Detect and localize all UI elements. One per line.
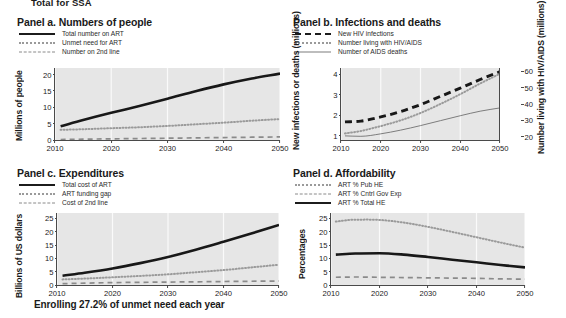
figure-root: Total for SSA Panel a. Numbers of people…	[0, 0, 566, 318]
legend-item: Total cost of ART	[17, 180, 124, 189]
x-axis-tick-label: 2010	[323, 285, 340, 298]
y-axis-tick-label: 10	[43, 103, 55, 112]
legend-label: ART funding gap	[62, 189, 111, 198]
y-axis-tick-label: 5	[49, 267, 57, 276]
x-axis-tick-label: 2050	[271, 285, 288, 298]
panel-b-ylabel-left: New infections or deaths (millions)	[292, 62, 302, 150]
y-axis-tick-label: 10	[319, 254, 331, 263]
y-axis-right-tick-label: 40	[521, 100, 533, 109]
panel-a-ylabel: Millions of people	[14, 66, 24, 146]
x-axis-tick-label: 2040	[215, 140, 232, 153]
legend-item: ART % Total HE	[293, 198, 402, 207]
line-style-dashed-icon	[17, 198, 57, 207]
figure-suptitle: Total for SSA	[31, 0, 92, 8]
x-axis-tick-label: 2050	[517, 285, 534, 298]
panel-a-legend: Total number on ART Unmet need for ART N…	[17, 29, 152, 56]
x-axis-tick-label: 2020	[371, 285, 388, 298]
panel-c: Panel c. Expenditures Total cost of ART …	[17, 167, 124, 207]
line-style-dotted-icon	[293, 180, 333, 189]
legend-label: ART % Total HE	[338, 198, 385, 207]
legend-label: Number living with HIV/AIDS	[338, 38, 422, 47]
y-axis-tick-label: 15	[45, 241, 57, 250]
y-axis-tick-label: 25	[319, 214, 331, 223]
y-axis-tick-label: 20	[43, 70, 55, 79]
legend-label: Number on 2nd line	[62, 47, 120, 56]
x-axis-tick-label: 2030	[160, 285, 177, 298]
x-axis-tick-label: 2010	[49, 285, 66, 298]
legend-item: Unmet need for ART	[17, 38, 152, 47]
panel-c-title: Panel c. Expenditures	[17, 167, 124, 179]
panel-a: Panel a. Numbers of people Total number …	[17, 16, 152, 56]
x-axis-tick-label: 2030	[420, 285, 437, 298]
panel-d-title: Panel d. Affordability	[293, 167, 402, 179]
panel-b-legend: New HIV infections Number living with HI…	[293, 29, 441, 56]
panel-c-legend: Total cost of ART ART funding gap Cost o…	[17, 180, 124, 207]
legend-item: Number living with HIV/AIDS	[293, 38, 441, 47]
panel-b-right-axis-line	[499, 68, 500, 141]
x-axis-tick-label: 2050	[272, 140, 289, 153]
y-axis-tick-label: 4	[333, 70, 341, 79]
x-axis-tick-label: 2020	[103, 140, 120, 153]
y-axis-right-tick-label: 30	[521, 116, 533, 125]
line-style-dashed-icon	[293, 189, 333, 198]
panel-c-ylabel: Billions of US dollars	[14, 213, 24, 299]
y-axis-tick-label: 20	[45, 227, 57, 236]
panel-b-title: Panel b. Infections and deaths	[293, 16, 441, 28]
panel-d: Panel d. Affordability ART % Pub HE ART …	[293, 167, 402, 207]
y-axis-tick-label: 5	[47, 119, 55, 128]
line-style-dashed-icon	[17, 47, 57, 56]
x-axis-tick-label: 2010	[333, 140, 350, 153]
x-axis-tick-label: 2020	[104, 285, 121, 298]
panel-d-legend: ART % Pub HE ART % Cntrl Gov Exp ART % T…	[293, 180, 402, 207]
x-axis-tick-label: 2010	[47, 140, 64, 153]
legend-label: Unmet need for ART	[62, 38, 122, 47]
line-style-dotted-icon	[17, 38, 57, 47]
panel-b-ylabel-right: Number living with HIV/AIDS (millions)	[537, 60, 547, 154]
y-axis-tick-label: 10	[45, 254, 57, 263]
legend-item: Cost of 2nd line	[17, 198, 124, 207]
y-axis-right-tick-label: 20	[521, 132, 533, 141]
legend-item: ART % Cntrl Gov Exp	[293, 189, 402, 198]
panel-a-title: Panel a. Numbers of people	[17, 16, 152, 28]
panel-d-plot-area: 051015202520102020203020402050	[330, 213, 525, 286]
y-axis-tick-label: 3	[333, 90, 341, 99]
panel-b: Panel b. Infections and deaths New HIV i…	[293, 16, 441, 56]
y-axis-tick-label: 25	[45, 214, 57, 223]
legend-item: ART % Pub HE	[293, 180, 402, 189]
legend-item: Number of AIDS deaths	[293, 47, 441, 56]
line-style-solid-thick-icon	[293, 198, 333, 207]
x-axis-tick-label: 2050	[492, 140, 509, 153]
legend-label: Cost of 2nd line	[62, 198, 108, 207]
legend-item: Total number on ART	[17, 29, 152, 38]
y-axis-tick-label: 2	[333, 111, 341, 120]
y-axis-tick-label: 15	[319, 241, 331, 250]
legend-label: ART % Cntrl Gov Exp	[338, 189, 402, 198]
y-axis-tick-label: 20	[319, 227, 331, 236]
line-style-solid-thick-icon	[17, 29, 57, 38]
panel-d-ylabel: Percentages	[297, 219, 307, 289]
x-axis-tick-label: 2020	[372, 140, 389, 153]
legend-label: New HIV infections	[338, 29, 394, 38]
figure-caption: Enrolling 27.2% of unmet need each year	[34, 299, 225, 310]
legend-label: Total cost of ART	[62, 180, 112, 189]
panel-a-plot-area: 0510152020102020203020402050	[54, 68, 280, 141]
line-style-solid-thick-icon	[17, 180, 57, 189]
y-axis-tick-label: 5	[323, 267, 331, 276]
y-axis-right-tick-label: 50	[521, 83, 533, 92]
line-style-dotted-icon	[17, 189, 57, 198]
panel-b-plot-area: 1234203040506020102020203020402050	[340, 68, 500, 141]
legend-label: Number of AIDS deaths	[338, 47, 407, 56]
x-axis-tick-label: 2040	[468, 285, 485, 298]
panel-c-plot-area: 051015202520102020203020402050	[56, 213, 279, 286]
legend-label: Total number on ART	[62, 29, 124, 38]
y-axis-tick-label: 15	[43, 86, 55, 95]
x-axis-tick-label: 2030	[159, 140, 176, 153]
legend-item: New HIV infections	[293, 29, 441, 38]
x-axis-tick-label: 2040	[452, 140, 469, 153]
legend-item: ART funding gap	[17, 189, 124, 198]
y-axis-right-tick-label: 60	[521, 67, 533, 76]
x-axis-tick-label: 2040	[215, 285, 232, 298]
legend-item: Number on 2nd line	[17, 47, 152, 56]
x-axis-tick-label: 2030	[412, 140, 429, 153]
legend-label: ART % Pub HE	[338, 180, 383, 189]
